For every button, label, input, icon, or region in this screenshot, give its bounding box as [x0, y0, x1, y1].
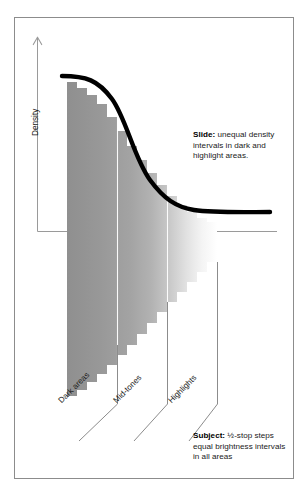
subject-callout-title: Subject:: [193, 431, 225, 440]
slide-callout-title: Slide:: [193, 130, 215, 139]
density-curve-diagram: [0, 0, 308, 502]
figure-root: Density Dark areas Mid-tones Highlights …: [0, 0, 308, 502]
y-axis-title: Density: [31, 109, 40, 136]
subject-callout: Subject: ½-stop steps equal brightness i…: [193, 431, 293, 463]
slide-callout: Slide: unequal density intervals in dark…: [193, 130, 289, 162]
